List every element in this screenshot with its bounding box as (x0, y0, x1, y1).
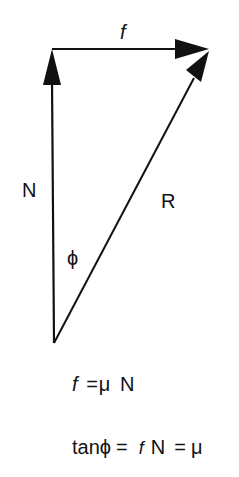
eq2-lhs: tanϕ (72, 436, 111, 459)
eq2-rhs-mu: μ (191, 436, 203, 459)
friction-force-vector (52, 39, 209, 59)
normal-force-vector (43, 49, 61, 343)
eq2-fraction-numerator: f (137, 438, 146, 460)
eq1-equals: = (86, 374, 98, 394)
resultant-label: R (161, 191, 175, 211)
resultant-force-arrowhead-icon (186, 51, 209, 82)
eq2-equals-1: = (116, 436, 128, 459)
eq2-equals-2: = (174, 436, 186, 459)
tangent-equation: tanϕ = f N = μ (72, 426, 202, 468)
eq1-lhs: f (72, 374, 78, 394)
friction-equation: f =μ N (72, 374, 134, 394)
normal-force-label: N (22, 180, 36, 200)
friction-label: f (120, 22, 126, 42)
resultant-force-vector (54, 51, 209, 343)
eq2-fraction-denominator: N (151, 434, 165, 458)
normal-force-arrowhead-icon (43, 49, 61, 85)
force-triangle-diagram (0, 0, 239, 477)
angle-phi-label: ϕ (67, 248, 78, 268)
eq1-mu: μ (99, 374, 111, 394)
eq1-N: N (120, 374, 134, 394)
eq2-fraction: f N (137, 437, 165, 457)
